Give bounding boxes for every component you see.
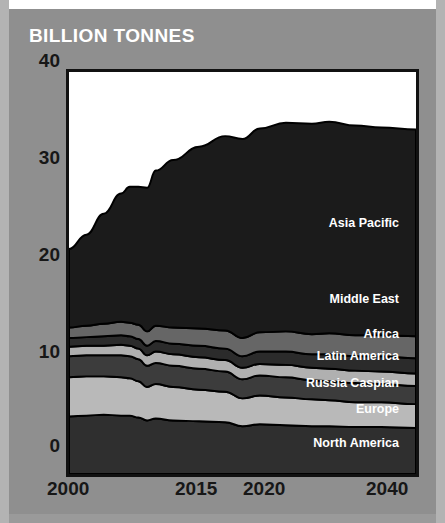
y-tick-40: 40 [14,51,60,70]
x-tick-2015: 2015 [175,479,217,498]
y-tick-10: 10 [14,342,60,361]
y-tick-20: 20 [14,245,60,264]
series-label-europe: Europe [239,403,399,416]
top-edge-strip [0,0,445,9]
series-label-asia-pacific: Asia Pacific [239,217,399,230]
left-edge-strip [0,0,9,523]
y-tick-30: 30 [14,148,60,167]
series-label-russia-caspian: Russia Caspian [239,377,399,390]
y-tick-0: 0 [14,436,60,455]
x-axis: 2000 2015 2020 2040 [9,479,436,513]
series-label-africa: Africa [239,328,399,341]
x-tick-2000: 2000 [47,479,89,498]
series-label-latin-america: Latin America [239,350,399,363]
series-label-middle-east: Middle East [239,293,399,306]
right-edge-strip [436,0,445,523]
series-label-north-america: North America [239,437,399,450]
chart-panel: BILLION TONNES 40 30 20 10 0 Asia Pacifi… [9,9,436,514]
y-axis: 40 30 20 10 0 [9,9,60,514]
stacked-area-chart: BILLION TONNES 40 30 20 10 0 Asia Pacifi… [0,0,445,523]
x-tick-2020: 2020 [243,479,285,498]
x-tick-2040: 2040 [366,479,408,498]
